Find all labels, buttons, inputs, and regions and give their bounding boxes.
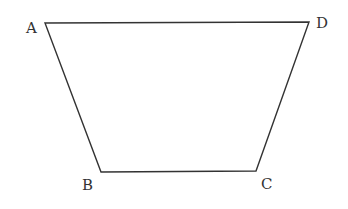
- vertex-label-a: A: [25, 19, 37, 37]
- trapezoid-diagram: A D C B: [0, 0, 348, 209]
- vertex-label-b: B: [82, 176, 93, 194]
- trapezoid-abcd: [45, 22, 309, 172]
- vertex-label-d: D: [316, 14, 328, 32]
- vertex-label-c: C: [261, 175, 272, 193]
